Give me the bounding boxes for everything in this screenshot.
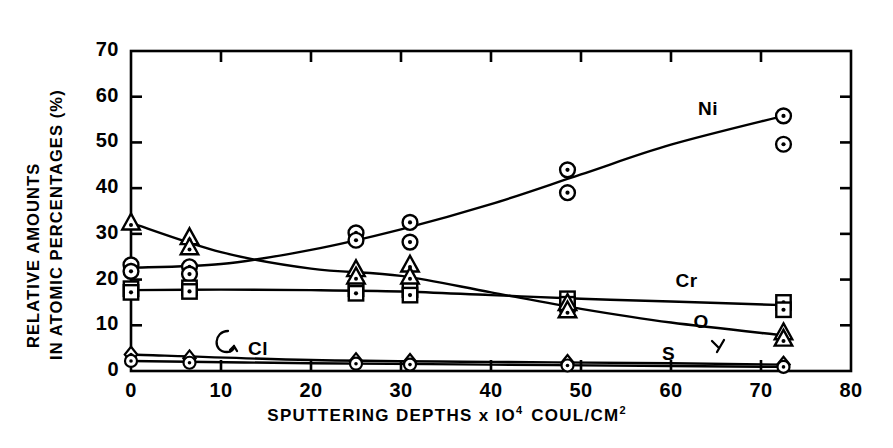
data-point-marker	[560, 162, 575, 177]
series-label-ni: Ni	[698, 98, 718, 120]
data-point-marker	[403, 235, 418, 250]
data-point-marker	[124, 264, 139, 279]
plot-area	[0, 0, 893, 448]
x-axis-label-mid: COUL/CM	[531, 406, 619, 425]
data-point-marker	[350, 358, 362, 370]
data-point-marker	[349, 286, 363, 300]
series-line-ni	[131, 116, 784, 268]
data-point-marker	[184, 357, 196, 369]
series-line-cr	[131, 290, 784, 306]
chart-figure: RELATIVE AMOUNTS IN ATOMIC PERCENTAGES (…	[0, 0, 893, 448]
x-axis-label: SPUTTERING DEPTHS x IO4COUL/CM2	[0, 404, 893, 426]
data-point-marker	[403, 215, 418, 230]
data-point-marker	[182, 267, 197, 282]
cl-pointer-icon	[217, 331, 237, 352]
series-label-s: S	[662, 343, 675, 365]
data-point-marker	[776, 109, 791, 124]
x-axis-label-exponent-1: 4	[516, 404, 522, 416]
data-point-marker	[562, 360, 574, 372]
x-axis-label-main: SPUTTERING DEPTHS x IO	[267, 406, 516, 425]
data-point-marker	[403, 288, 417, 302]
series-label-cr: Cr	[676, 270, 698, 292]
data-point-marker	[404, 359, 416, 371]
s-pointer-icon	[712, 340, 724, 352]
plot-frame	[131, 51, 851, 371]
data-point-marker	[776, 303, 790, 317]
data-point-marker	[182, 284, 196, 298]
series-label-cl: Cl	[248, 338, 268, 360]
data-point-marker	[349, 233, 364, 248]
data-point-marker	[560, 185, 575, 200]
data-point-marker	[125, 355, 137, 367]
x-axis-label-exponent-2: 2	[620, 404, 626, 416]
series-label-o: O	[694, 311, 709, 333]
data-point-marker	[778, 361, 790, 373]
data-point-marker	[124, 285, 138, 299]
data-point-marker	[122, 214, 139, 230]
data-point-marker	[776, 137, 791, 152]
